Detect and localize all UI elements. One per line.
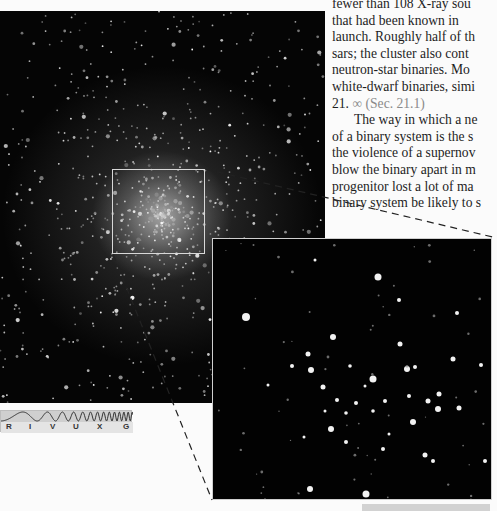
body-text: fewer than 108 X-ray sou that had been k… bbox=[332, 0, 497, 212]
band-label-ultraviolet: U bbox=[73, 422, 79, 431]
text-line: fewer than 108 X-ray sou bbox=[332, 0, 497, 13]
inset-cluster-image bbox=[212, 238, 492, 500]
wavelength-labels: R I V U X G bbox=[1, 422, 133, 433]
text-line: white-dwarf binaries, simi bbox=[332, 79, 497, 96]
text-line: The way in which a ne bbox=[332, 112, 497, 129]
link-icon[interactable]: ∞ bbox=[352, 96, 362, 111]
text-fragment: 21. bbox=[332, 96, 349, 111]
inset-star-field bbox=[213, 239, 492, 500]
wavelength-bar: R I V U X G bbox=[0, 410, 132, 432]
text-line: neutron-star binaries. Mo bbox=[332, 62, 497, 79]
text-line: binary system be likely to s bbox=[332, 195, 497, 212]
wave-icon bbox=[1, 411, 133, 422]
text-line: of a binary system is the s bbox=[332, 129, 497, 146]
band-label-gamma: G bbox=[123, 422, 129, 431]
text-line: launch. Roughly half of th bbox=[332, 29, 497, 46]
text-line: that had been known in bbox=[332, 13, 497, 30]
band-label-xray: X bbox=[97, 422, 102, 431]
text-line: progenitor lost a lot of ma bbox=[332, 179, 497, 196]
zoom-region-box bbox=[112, 169, 205, 254]
text-line: blow the binary apart in m bbox=[332, 162, 497, 179]
band-label-visible: V bbox=[50, 422, 55, 431]
band-label-infrared: I bbox=[29, 422, 31, 431]
text-line-xref: 21. ∞ (Sec. 21.1) bbox=[332, 96, 497, 113]
text-line: the violence of a supernov bbox=[332, 145, 497, 162]
text-line: sars; the cluster also cont bbox=[332, 46, 497, 63]
band-label-radio: R bbox=[6, 422, 12, 431]
section-reference-link[interactable]: (Sec. 21.1) bbox=[366, 96, 425, 111]
wavelength-bar-inset bbox=[362, 504, 490, 511]
